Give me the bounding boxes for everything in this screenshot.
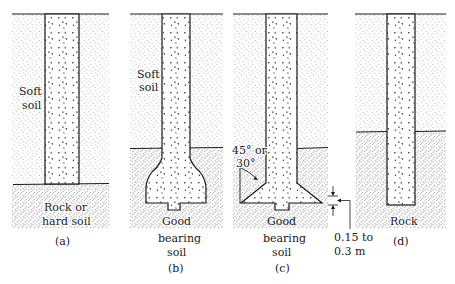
label-soft-soil-line2: soil	[22, 99, 42, 112]
caption-c: (c)	[275, 262, 290, 275]
label-soft-soil-line1: Soft	[19, 85, 42, 98]
label-dimension-line2: 0.3 m	[334, 245, 366, 258]
dimension-leader	[338, 201, 350, 230]
label-good-bearing-soil-line1: Good	[267, 215, 296, 228]
caption-a: (a)	[55, 235, 70, 248]
label-soft-soil-line2: soil	[139, 81, 159, 94]
label-good-bearing-soil-line3: soil	[272, 246, 292, 259]
panel-b: Soft soil Good bearing soil (b)	[130, 14, 223, 275]
caption-b: (b)	[168, 262, 184, 275]
label-rock-or-hard-soil-line1: Rock or	[44, 201, 88, 214]
dimension-arrowhead-up	[331, 205, 335, 209]
panel-d: Rock (d)	[355, 14, 446, 248]
label-dimension-line1: 0.15 to	[334, 231, 373, 244]
panel-a: Soft soil Rock or hard soil (a)	[12, 14, 109, 248]
label-good-bearing-soil-line3: soil	[167, 246, 187, 259]
caption-d: (d)	[393, 235, 409, 248]
label-good-bearing-soil-line1: Good	[162, 215, 191, 228]
panel-c: 45° or 30° Good bearing soil (c) 0.15 to…	[232, 14, 373, 275]
label-soft-soil-line1: Soft	[137, 68, 160, 81]
label-good-bearing-soil-line2: bearing	[263, 232, 306, 245]
label-rock: Rock	[390, 215, 418, 228]
label-angle-line2: 30°	[236, 157, 256, 170]
socketed-shaft	[387, 14, 415, 205]
dimension-leader-arrowhead	[337, 199, 341, 203]
label-good-bearing-soil-line2: bearing	[158, 232, 201, 245]
label-angle-line1: 45° or	[232, 144, 268, 157]
shaft	[45, 14, 79, 184]
drilled-shaft-figure: Soft soil Rock or hard soil (a) Soft soi…	[0, 0, 455, 284]
dimension-arrowhead-down	[331, 192, 335, 196]
label-rock-or-hard-soil-line2: hard soil	[42, 215, 91, 228]
